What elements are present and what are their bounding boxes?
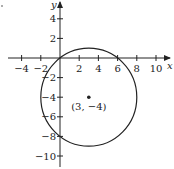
y-axis-label: y: [50, 0, 57, 10]
x-axis-label: x: [167, 60, 173, 71]
axes: [8, 2, 170, 167]
y-tick-label: −6: [41, 111, 56, 122]
x-tick-label: 8: [134, 63, 140, 74]
y-tick-label: 2: [50, 33, 56, 44]
center-point: [87, 95, 91, 99]
circle-graph: −4−224681042−2−4−6−8−10xy(3, −4): [0, 0, 174, 169]
y-tick-label: −2: [41, 72, 56, 83]
y-tick-label: −4: [41, 92, 56, 103]
x-tick-label: 4: [95, 63, 101, 74]
x-tick-label: 2: [76, 63, 82, 74]
labels: −4−224681042−2−4−6−8−10xy(3, −4): [14, 0, 173, 162]
y-tick-label: −8: [41, 131, 56, 142]
y-tick-label: 4: [50, 13, 56, 24]
x-tick-label: −4: [14, 63, 29, 74]
y-tick-label: −10: [35, 151, 56, 162]
x-tick-label: 10: [150, 63, 163, 74]
x-tick-label: 6: [114, 63, 120, 74]
stray-dot: [1, 5, 3, 7]
center-label: (3, −4): [71, 101, 106, 112]
